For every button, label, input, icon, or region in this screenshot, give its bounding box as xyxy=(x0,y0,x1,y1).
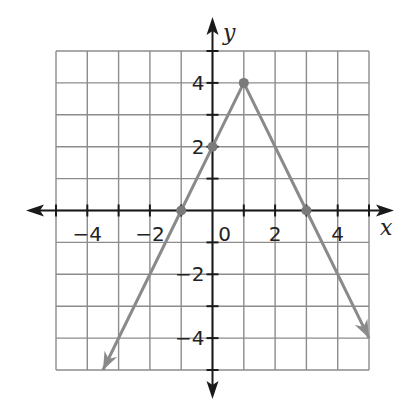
x-tick-label: −2 xyxy=(135,222,164,246)
data-point xyxy=(208,142,218,152)
x-tick-label: 0 xyxy=(218,222,231,246)
y-tick-label: −2 xyxy=(175,262,204,286)
data-point xyxy=(239,78,249,88)
y-tick-label: 4 xyxy=(192,71,205,95)
data-point xyxy=(176,206,186,216)
axes xyxy=(26,17,394,399)
x-axis-label: x xyxy=(380,215,393,240)
x-tick-label: 2 xyxy=(269,222,282,246)
y-axis-label: y xyxy=(222,20,236,45)
y-tick-label: 2 xyxy=(192,135,205,159)
x-tick-label: −4 xyxy=(73,222,102,246)
coordinate-plane: −4−2024−4−224 x y xyxy=(0,0,415,417)
data-point xyxy=(301,206,311,216)
y-tick-label: −4 xyxy=(175,326,204,350)
x-tick-label: 4 xyxy=(331,222,344,246)
